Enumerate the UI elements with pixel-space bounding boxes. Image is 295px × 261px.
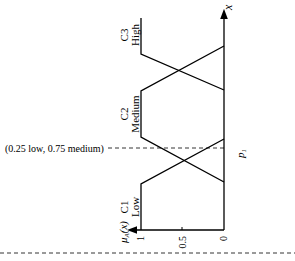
y-axis-label: μA(x) bbox=[117, 221, 131, 244]
set-name-low: Low bbox=[129, 197, 141, 217]
marker-p1: p1 bbox=[234, 149, 248, 159]
membership-low bbox=[141, 139, 224, 230]
tick-0: 0 bbox=[218, 236, 229, 241]
set-name-medium: Medium bbox=[129, 95, 141, 133]
membership-high bbox=[141, 18, 224, 90]
set-name-high: High bbox=[129, 24, 141, 47]
tick-1: 1 bbox=[135, 236, 146, 241]
x-axis-label: x bbox=[221, 4, 235, 11]
annotation-label: (0.25 low, 0.75 medium) bbox=[5, 143, 104, 155]
fuzzy-diagram: (0.25 low, 0.75 medium) x p1 C3 High C2 … bbox=[0, 0, 295, 261]
tick-0-5: 0.5 bbox=[177, 236, 188, 249]
